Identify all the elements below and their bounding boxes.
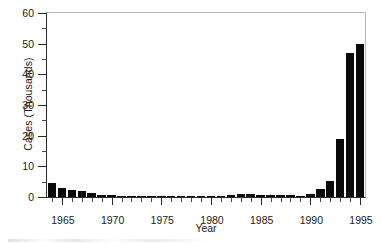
y-tick-label: 30	[22, 99, 34, 111]
x-tick-1965: 1965	[62, 197, 63, 205]
x-tick-minor	[251, 197, 252, 202]
x-axis-title: Year	[46, 222, 366, 234]
x-tick-1995: 1995	[360, 197, 361, 205]
bar-1965	[58, 188, 67, 198]
scan-artifact	[8, 239, 208, 242]
bar-1991	[316, 189, 325, 197]
x-tick-minor	[281, 197, 282, 202]
x-tick-minor	[340, 197, 341, 202]
y-tick-minor	[42, 28, 47, 29]
y-tick-10: 10	[38, 166, 47, 167]
x-tick-minor	[141, 197, 142, 202]
x-tick-minor	[131, 197, 132, 202]
y-tick-minor	[42, 59, 47, 60]
bar-1994	[346, 53, 355, 197]
x-tick-minor	[320, 197, 321, 202]
bar-1992	[326, 181, 335, 197]
x-tick-minor	[300, 197, 301, 202]
x-tick-minor	[231, 197, 232, 202]
y-tick-60: 60	[38, 13, 47, 14]
x-tick-minor	[221, 197, 222, 202]
y-tick-minor	[42, 151, 47, 152]
y-tick-label: 10	[22, 160, 34, 172]
x-tick-minor	[241, 197, 242, 202]
bar-chart-figure: Cases (Thousands) 0102030405060 19651970…	[0, 0, 381, 244]
y-tick-30: 30	[38, 105, 47, 106]
y-tick-label: 0	[28, 191, 34, 203]
bar-1995	[356, 44, 365, 197]
x-tick-minor	[350, 197, 351, 202]
x-tick-1985: 1985	[261, 197, 262, 205]
y-tick-minor	[42, 182, 47, 183]
x-tick-minor	[82, 197, 83, 202]
x-tick-1990: 1990	[310, 197, 311, 205]
x-tick-minor	[122, 197, 123, 202]
x-tick-minor	[72, 197, 73, 202]
x-tick-minor	[102, 197, 103, 202]
x-tick-1970: 1970	[112, 197, 113, 205]
x-tick-1975: 1975	[161, 197, 162, 205]
x-tick-minor	[290, 197, 291, 202]
y-tick-label: 40	[22, 68, 34, 80]
bar-1993	[336, 139, 345, 197]
y-tick-50: 50	[38, 44, 47, 45]
x-tick-1980: 1980	[211, 197, 212, 205]
y-tick-minor	[42, 90, 47, 91]
x-tick-minor	[181, 197, 182, 202]
y-tick-label: 20	[22, 130, 34, 142]
bar-1966	[68, 190, 77, 197]
y-tick-40: 40	[38, 74, 47, 75]
y-tick-label: 50	[22, 38, 34, 50]
x-tick-minor	[92, 197, 93, 202]
y-tick-20: 20	[38, 136, 47, 137]
y-tick-0: 0	[38, 197, 47, 198]
x-tick-minor	[191, 197, 192, 202]
x-tick-minor	[171, 197, 172, 202]
x-tick-minor	[271, 197, 272, 202]
x-tick-minor	[201, 197, 202, 202]
plot-area: 0102030405060 19651970197519801985199019…	[46, 12, 366, 198]
x-tick-minor	[151, 197, 152, 202]
x-tick-minor	[330, 197, 331, 202]
y-tick-minor	[42, 120, 47, 121]
y-tick-label: 60	[22, 7, 34, 19]
bar-1964	[48, 183, 57, 197]
x-tick-minor	[52, 197, 53, 202]
